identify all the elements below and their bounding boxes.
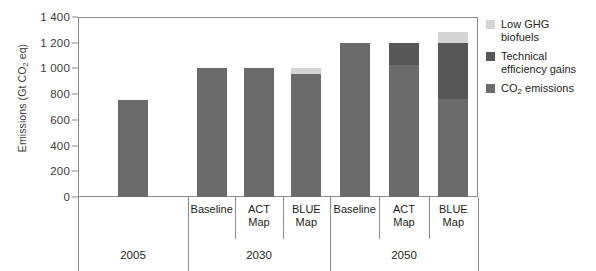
legend-swatch <box>486 20 495 29</box>
scenario-divider <box>283 197 284 239</box>
bars-container <box>78 17 478 197</box>
legend-item-technical-efficiency-gains: Technicalefficiency gains <box>486 50 596 76</box>
scenario-label-line: Baseline <box>334 203 376 216</box>
bar-segment <box>438 43 468 100</box>
scenario-label-line: ACT <box>393 203 415 216</box>
y-axis-ticks: 1 4001 2001 0008006004002000 <box>18 0 70 271</box>
bar-segment <box>389 65 419 197</box>
bar <box>389 43 419 197</box>
y-tick-label: 800 <box>18 88 70 100</box>
bar <box>438 32 468 197</box>
group-divider <box>188 197 189 271</box>
scenario-label-line: BLUE <box>439 203 468 216</box>
group-divider <box>78 197 79 271</box>
scenario-label: BLUEMap <box>429 197 478 239</box>
scenario-label-line: ACT <box>248 203 270 216</box>
scenario-label-row: BaselineACTMapBLUEMapBaselineACTMapBLUEM… <box>78 197 478 239</box>
scenario-label-line: BLUE <box>292 203 321 216</box>
bar-segment <box>438 32 468 42</box>
scenario-divider <box>235 197 236 239</box>
legend-item-co2-emissions: CO2 emissions <box>486 82 596 96</box>
bar-segment <box>340 43 370 197</box>
y-tick-label: 1 000 <box>18 62 70 74</box>
emissions-stacked-bar-chart: Emissions (Gt CO2 eq) 1 4001 2001 000800… <box>0 0 596 271</box>
bar <box>197 68 227 197</box>
legend-label-line-2: efficiency gains <box>501 63 576 76</box>
legend-swatch <box>486 52 495 61</box>
bar <box>340 43 370 197</box>
y-tick-label: 1 200 <box>18 37 70 49</box>
scenario-label-line: Map <box>393 216 414 229</box>
scenario-label-line: Map <box>248 216 269 229</box>
y-tick-label: 400 <box>18 140 70 152</box>
scenario-label: Baseline <box>330 197 379 239</box>
y-tick-label: 200 <box>18 165 70 177</box>
x-axis-label-area: BaselineACTMapBLUEMapBaselineACTMapBLUEM… <box>78 197 478 271</box>
y-tick-label: 600 <box>18 114 70 126</box>
legend-label-line-2: biofuels <box>501 31 549 44</box>
bar <box>291 68 321 197</box>
bar-segment <box>118 100 148 197</box>
bar <box>118 100 148 197</box>
year-label: 2030 <box>188 239 330 271</box>
year-label: 2005 <box>78 239 188 271</box>
legend-swatch <box>486 84 495 93</box>
y-tick-label: 0 <box>18 191 70 203</box>
legend-label-line-1: Low GHG <box>501 18 549 31</box>
bar-segment <box>291 74 321 197</box>
group-divider <box>330 197 331 271</box>
legend-label-post: emissions <box>522 82 574 94</box>
legend-label: CO2 emissions <box>501 82 574 96</box>
legend-item-low-ghg-biofuels: Low GHGbiofuels <box>486 18 596 44</box>
bar-segment <box>389 43 419 65</box>
year-label: 2050 <box>330 239 478 271</box>
scenario-label-line: Map <box>443 216 464 229</box>
y-tick-label: 1 400 <box>18 11 70 23</box>
legend-label-pre: CO <box>501 82 518 94</box>
legend-label: Technicalefficiency gains <box>501 50 576 76</box>
scenario-divider <box>379 197 380 239</box>
bar-segment <box>244 68 274 197</box>
group-divider <box>478 197 479 271</box>
bar <box>244 68 274 197</box>
bar-segment <box>197 68 227 197</box>
scenario-label: ACTMap <box>379 197 428 239</box>
year-label-row: 200520302050 <box>78 239 478 271</box>
legend-label-line-1: Technical <box>501 50 576 63</box>
scenario-label-line: Map <box>296 216 317 229</box>
bar-segment <box>438 99 468 197</box>
scenario-label: ACTMap <box>235 197 282 239</box>
scenario-label-line: Baseline <box>191 203 233 216</box>
scenario-divider <box>429 197 430 239</box>
legend-label-subscript: 2 <box>518 87 522 96</box>
legend-label: Low GHGbiofuels <box>501 18 549 44</box>
scenario-label: BLUEMap <box>283 197 330 239</box>
chart-legend: Low GHGbiofuelsTechnicalefficiency gains… <box>486 18 596 102</box>
scenario-label: Baseline <box>188 197 235 239</box>
